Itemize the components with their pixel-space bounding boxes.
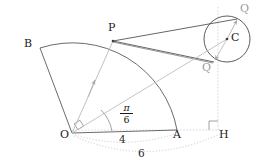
measure-label-4: 4 xyxy=(119,134,126,145)
point-label-P: P xyxy=(108,22,115,33)
dot-C xyxy=(226,38,229,41)
point-label-H: H xyxy=(219,129,229,140)
right-angle-at-H xyxy=(209,121,218,130)
angle-numerator: π xyxy=(120,103,133,113)
sector-arc-BA xyxy=(40,43,177,130)
point-label-C: C xyxy=(231,32,239,43)
geometry-figure: O A H B P C Q Q π 6 4 6 xyxy=(0,0,266,167)
angle-label-pi-over-6: π 6 xyxy=(120,103,133,125)
vector-OP-arrowhead xyxy=(88,80,95,97)
angle-denominator: 6 xyxy=(120,115,133,125)
point-label-Q-upper: Q xyxy=(240,3,249,14)
segment-PQ2-lower xyxy=(113,42,213,63)
measurement-arcs xyxy=(74,134,220,152)
measure-arc-OH xyxy=(74,134,220,152)
figure-canvas xyxy=(0,0,266,167)
vector-OC xyxy=(72,39,227,133)
angle-arc-AOP xyxy=(101,110,112,131)
right-angle-markers xyxy=(74,120,218,130)
point-label-Q-lower: Q xyxy=(202,62,211,73)
measure-label-6: 6 xyxy=(138,148,145,159)
dot-P xyxy=(112,40,115,43)
gray-vectors xyxy=(72,20,237,133)
point-label-O: O xyxy=(60,129,69,140)
point-label-A: A xyxy=(173,129,181,140)
point-label-B: B xyxy=(24,38,32,49)
segment-OB xyxy=(40,48,72,133)
